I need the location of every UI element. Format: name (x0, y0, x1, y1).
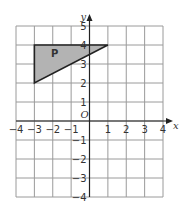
origin-label: O (81, 109, 89, 120)
tick-label: −2 (72, 154, 87, 165)
tick-label: 4 (80, 40, 86, 51)
tick-label: 4 (160, 124, 166, 135)
tick-label: 1 (105, 124, 111, 135)
tick-label: 2 (123, 124, 129, 135)
tick-label: 3 (141, 124, 147, 135)
tick-label: −2 (45, 124, 60, 135)
tick-label: 5 (80, 21, 86, 32)
coordinate-grid: P −4−3−2−1123454321−1−2−3−4 x y O (0, 0, 187, 204)
tick-label: 1 (80, 97, 86, 108)
tick-label: 2 (80, 78, 86, 89)
tick-label: −4 (72, 192, 87, 203)
tick-label: −3 (72, 173, 87, 184)
tick-label: −1 (72, 135, 87, 146)
tick-label: −3 (27, 124, 42, 135)
tick-label: 3 (80, 59, 86, 70)
axes (16, 14, 173, 197)
y-axis-label: y (80, 11, 87, 22)
tick-label: −4 (9, 124, 24, 135)
shape-label: P (51, 48, 58, 59)
tick-label: −1 (64, 124, 79, 135)
x-axis-label: x (173, 120, 179, 131)
